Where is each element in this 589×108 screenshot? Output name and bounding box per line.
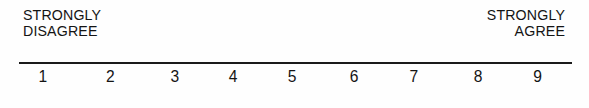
- scale-point-3[interactable]: 3: [162, 67, 188, 87]
- anchor-label-high-line2: AGREE: [487, 23, 565, 39]
- scale-point-2[interactable]: 2: [97, 67, 123, 87]
- anchor-label-low-line1: STRONGLY: [23, 7, 101, 23]
- scale-point-1[interactable]: 1: [30, 67, 56, 87]
- anchor-label-row: STRONGLY DISAGREE STRONGLY AGREE: [0, 0, 589, 56]
- anchor-label-low-line2: DISAGREE: [23, 23, 101, 39]
- scale-point-4[interactable]: 4: [220, 67, 246, 87]
- scale-tick-labels: 123456789: [19, 67, 572, 89]
- scale-axis-line: [19, 62, 572, 64]
- likert-scale: STRONGLY DISAGREE STRONGLY AGREE 1234567…: [0, 0, 589, 108]
- anchor-label-high: STRONGLY AGREE: [487, 7, 565, 40]
- scale-point-5[interactable]: 5: [279, 67, 305, 87]
- scale-point-6[interactable]: 6: [341, 67, 367, 87]
- anchor-label-low: STRONGLY DISAGREE: [23, 7, 101, 40]
- scale-point-7[interactable]: 7: [401, 67, 427, 87]
- anchor-label-high-line1: STRONGLY: [487, 7, 565, 23]
- scale-point-8[interactable]: 8: [465, 67, 491, 87]
- scale-point-9[interactable]: 9: [525, 67, 551, 87]
